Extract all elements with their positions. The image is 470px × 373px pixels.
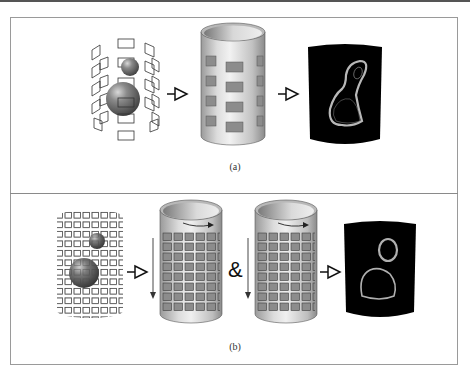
svg-text:&: & [228,257,243,282]
small-sphere [121,58,139,76]
top-rule [0,0,470,2]
caption-b: (b) [215,341,255,352]
large-sphere [106,82,140,116]
arrow-icon [320,265,342,279]
panel-a-reconstructed-image [308,43,382,147]
panel-b-reconstructed-image [344,220,416,320]
panel-a-cylinder-with-coils [198,20,268,148]
panel-b-dense-coil-array-with-spheres [55,211,125,319]
panel-divider [10,193,458,194]
caption-a: (a) [215,161,255,172]
arrow-icon [167,87,189,101]
panel-b-cylinder-scan-1 [148,196,226,328]
arrow-icon [127,265,149,279]
panel-b-cylinder-scan-2 [243,196,321,328]
arrow-icon [278,87,300,101]
panel-a-coil-array-with-spheres [88,38,168,148]
